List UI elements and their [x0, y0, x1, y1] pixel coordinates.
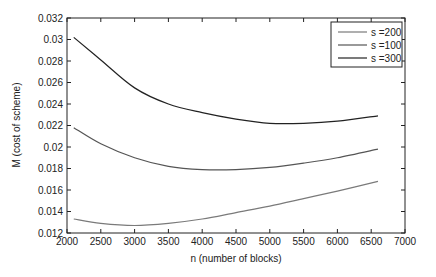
legend-label: s =100: [371, 40, 402, 51]
x-tick-label: 6000: [326, 236, 349, 247]
x-tick-label: 5000: [259, 236, 282, 247]
x-tick-label: 6500: [360, 236, 383, 247]
x-tick-label: 2500: [90, 236, 113, 247]
legend-label: s =300: [371, 53, 402, 64]
y-tick-label: 0.032: [38, 13, 63, 24]
x-tick-label: 4500: [225, 236, 248, 247]
x-tick-label: 3500: [157, 236, 180, 247]
x-tick-label: 2000: [56, 236, 79, 247]
x-axis-label: n (number of blocks): [190, 253, 281, 264]
line-chart: 0.0120.0140.0160.0180.020.0220.0240.0260…: [0, 0, 436, 277]
x-tick-label: 4000: [191, 236, 214, 247]
y-tick-label: 0.026: [38, 77, 63, 88]
y-tick-label: 0.028: [38, 56, 63, 67]
x-tick-label: 3000: [123, 236, 146, 247]
legend: s =200s =100s =300: [331, 22, 402, 67]
legend-label: s =200: [371, 27, 402, 38]
y-tick-label: 0.016: [38, 185, 63, 196]
y-tick-label: 0.018: [38, 163, 63, 174]
x-tick-label: 7000: [394, 236, 417, 247]
y-tick-label: 0.03: [44, 34, 64, 45]
y-tick-label: 0.022: [38, 120, 63, 131]
y-tick-label: 0.02: [44, 142, 64, 153]
y-tick-label: 0.014: [38, 206, 63, 217]
y-tick-label: 0.024: [38, 99, 63, 110]
x-tick-label: 5500: [292, 236, 315, 247]
y-axis-label: M (cost of scheme): [11, 82, 22, 167]
